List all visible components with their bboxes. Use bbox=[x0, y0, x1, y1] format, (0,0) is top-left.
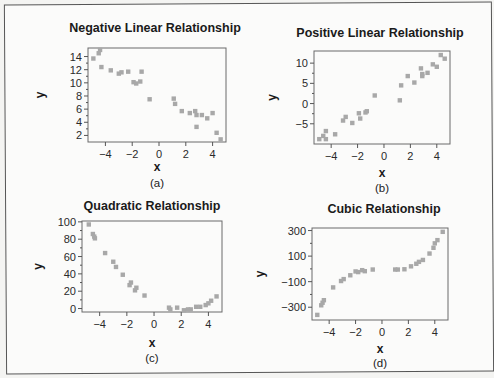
data-point bbox=[356, 270, 360, 274]
data-point bbox=[371, 267, 375, 271]
data-point bbox=[129, 280, 133, 284]
data-point bbox=[431, 62, 435, 66]
y-tick-label: −100 bbox=[281, 276, 306, 288]
data-point bbox=[348, 273, 352, 277]
data-point bbox=[134, 81, 138, 85]
data-point bbox=[114, 265, 118, 269]
data-point bbox=[198, 305, 202, 309]
data-point bbox=[406, 74, 410, 78]
data-point bbox=[205, 116, 209, 120]
data-point bbox=[121, 273, 125, 277]
chart-title: Positive Linear Relationship bbox=[296, 26, 464, 40]
x-axis-label: x bbox=[377, 342, 384, 356]
y-axis-label: y bbox=[253, 270, 267, 277]
data-point bbox=[322, 298, 326, 302]
data-point bbox=[126, 69, 130, 73]
data-point bbox=[134, 286, 138, 290]
y-tick-label: 12 bbox=[70, 64, 82, 76]
x-axis-label: x bbox=[149, 336, 156, 350]
x-tick-label: −2 bbox=[126, 148, 139, 160]
data-point bbox=[139, 69, 143, 73]
data-point bbox=[99, 65, 103, 69]
panel-label: (a) bbox=[150, 177, 164, 189]
data-point bbox=[119, 70, 123, 74]
x-tick-label: −2 bbox=[349, 326, 362, 338]
plot-area bbox=[314, 51, 450, 144]
chart-title: Negative Linear Relationship bbox=[69, 21, 241, 35]
y-axis-label: y bbox=[265, 94, 279, 101]
y-tick-label: 10 bbox=[296, 57, 308, 69]
data-point bbox=[441, 230, 445, 234]
x-tick-label: 0 bbox=[151, 318, 157, 330]
data-point bbox=[98, 48, 102, 52]
y-tick-label: 6 bbox=[76, 103, 82, 115]
subplot-a: Negative Linear Relationship−4−202424681… bbox=[33, 21, 241, 189]
data-point bbox=[172, 96, 176, 100]
data-point bbox=[417, 260, 421, 264]
x-tick-label: −2 bbox=[351, 150, 364, 162]
data-point bbox=[147, 97, 151, 101]
data-point bbox=[419, 66, 423, 70]
data-point bbox=[420, 72, 424, 76]
y-axis-label: y bbox=[31, 263, 45, 270]
data-point bbox=[194, 113, 198, 117]
y-tick-label: 100 bbox=[288, 250, 306, 262]
y-tick-label: 60 bbox=[64, 251, 76, 263]
data-point bbox=[399, 83, 403, 87]
data-point bbox=[412, 80, 416, 84]
data-point bbox=[200, 113, 204, 117]
x-tick-label: 2 bbox=[183, 148, 189, 160]
data-point bbox=[109, 68, 113, 72]
data-point bbox=[317, 137, 321, 141]
y-tick-label: −5 bbox=[295, 118, 308, 130]
x-tick-label: 4 bbox=[434, 150, 440, 162]
data-point bbox=[214, 131, 218, 135]
y-tick-label: 100 bbox=[58, 216, 76, 228]
y-tick-label: 0 bbox=[302, 98, 308, 110]
data-point bbox=[168, 307, 172, 311]
subplot-c: Quadratic Relationship−4−202402040608010… bbox=[31, 199, 222, 364]
chart-title: Quadratic Relationship bbox=[84, 199, 221, 213]
data-point bbox=[439, 53, 443, 57]
data-point bbox=[138, 79, 142, 83]
x-tick-label: −4 bbox=[323, 326, 336, 338]
y-tick-label: 80 bbox=[64, 233, 76, 245]
subplot-b: Positive Linear Relationship−4−2024−5051… bbox=[265, 26, 464, 194]
data-point bbox=[188, 111, 192, 115]
data-point bbox=[91, 56, 95, 60]
data-point bbox=[194, 125, 198, 129]
data-point bbox=[350, 121, 354, 125]
data-point bbox=[425, 71, 429, 75]
x-tick-label: 4 bbox=[210, 148, 216, 160]
data-point bbox=[111, 260, 115, 264]
y-tick-label: −300 bbox=[281, 301, 306, 313]
scatter-figure: Negative Linear Relationship−4−202424681… bbox=[0, 0, 494, 378]
data-point bbox=[142, 293, 146, 297]
plot-area bbox=[82, 221, 222, 312]
y-tick-label: 20 bbox=[64, 285, 76, 297]
data-point bbox=[431, 246, 435, 250]
data-point bbox=[435, 65, 439, 69]
data-point bbox=[398, 98, 402, 102]
data-point bbox=[357, 111, 361, 115]
x-tick-label: 0 bbox=[379, 326, 385, 338]
x-axis-label: x bbox=[154, 160, 161, 174]
data-point bbox=[193, 109, 197, 113]
data-point bbox=[373, 93, 377, 97]
x-tick-label: −4 bbox=[99, 148, 112, 160]
data-point bbox=[435, 238, 439, 242]
y-tick-label: 40 bbox=[64, 268, 76, 280]
x-tick-label: 2 bbox=[178, 318, 184, 330]
x-tick-label: −2 bbox=[121, 318, 134, 330]
data-point bbox=[315, 313, 319, 317]
y-tick-label: 8 bbox=[76, 90, 82, 102]
data-point bbox=[365, 109, 369, 113]
data-point bbox=[333, 132, 337, 136]
y-tick-label: 4 bbox=[76, 116, 82, 128]
data-point bbox=[409, 264, 413, 268]
y-tick-label: 2 bbox=[76, 129, 82, 141]
data-point bbox=[93, 236, 97, 240]
subplot-d: Cubic Relationship−4−2024−300−100100300x… bbox=[253, 202, 448, 369]
data-point bbox=[341, 277, 345, 281]
data-point bbox=[358, 116, 362, 120]
